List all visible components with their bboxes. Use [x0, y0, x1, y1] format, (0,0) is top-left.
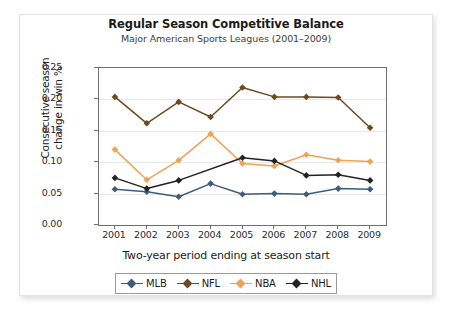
x-axis-tick-mark: [114, 225, 115, 229]
data-point-marker: [303, 172, 310, 179]
y-axis-tick-mark: [94, 193, 98, 194]
legend-label: NHL: [311, 278, 331, 289]
y-axis-label-line2: change in win %: [52, 66, 64, 149]
series-mlb: [112, 180, 374, 200]
data-point-marker: [367, 158, 374, 165]
chart-legend: MLBNFLNBANHL: [115, 273, 337, 294]
legend-label: NBA: [255, 278, 276, 289]
y-axis-tick-mark: [94, 98, 98, 99]
series-canvas: [99, 68, 386, 225]
x-axis-tick-mark: [210, 225, 211, 229]
legend-marker-icon: [286, 279, 308, 289]
legend-marker-icon: [121, 279, 143, 289]
data-point-marker: [239, 191, 246, 198]
data-point-marker: [112, 186, 119, 193]
y-axis-tick-label: 0.05: [28, 187, 62, 198]
data-point-marker: [271, 94, 278, 101]
x-axis-tick-mark: [273, 225, 274, 229]
legend-item-nhl[interactable]: NHL: [286, 278, 331, 289]
data-point-marker: [175, 177, 182, 184]
x-axis-tick-mark: [305, 225, 306, 229]
data-point-marker: [303, 151, 310, 158]
plot-area: [98, 67, 387, 226]
y-axis-tick-mark: [94, 67, 98, 68]
x-axis-tick-label: 2009: [347, 229, 391, 240]
legend-diamond-icon: [236, 279, 246, 289]
y-axis-tick-mark: [94, 161, 98, 162]
legend-diamond-icon: [182, 279, 192, 289]
chart-subtitle: Major American Sports Leagues (2001–2009…: [0, 33, 452, 44]
y-axis-tick-label: 0.10: [28, 155, 62, 166]
x-axis-tick-mark: [146, 225, 147, 229]
y-axis-tick-label: 0.15: [28, 124, 62, 135]
legend-item-nba[interactable]: NBA: [230, 278, 276, 289]
legend-label: MLB: [146, 278, 166, 289]
data-point-marker: [271, 190, 278, 197]
data-point-marker: [335, 157, 342, 164]
legend-marker-icon: [230, 279, 252, 289]
x-axis-label: Two-year period ending at season start: [0, 249, 452, 262]
legend-diamond-icon: [127, 279, 137, 289]
legend-label: NFL: [202, 278, 220, 289]
y-axis-label-line1: Consecutive season: [39, 57, 51, 158]
y-axis-tick-label: 0.25: [28, 61, 62, 72]
y-axis-label: Consecutive season change in win %: [39, 23, 65, 193]
chart-figure: Regular Season Competitive Balance Major…: [0, 0, 452, 318]
data-point-marker: [112, 175, 119, 182]
data-point-marker: [175, 193, 182, 200]
data-point-marker: [367, 177, 374, 184]
y-axis-tick-label: 0.00: [28, 218, 62, 229]
data-point-marker: [303, 191, 310, 198]
data-point-marker: [335, 185, 342, 192]
x-axis-tick-mark: [337, 225, 338, 229]
x-axis-tick-mark: [178, 225, 179, 229]
x-axis-tick-mark: [242, 225, 243, 229]
data-point-marker: [239, 155, 246, 162]
legend-diamond-icon: [291, 279, 301, 289]
y-axis-tick-mark: [94, 224, 98, 225]
x-axis-tick-mark: [369, 225, 370, 229]
chart-title: Regular Season Competitive Balance: [0, 17, 452, 31]
legend-item-nfl[interactable]: NFL: [177, 278, 220, 289]
series-line: [115, 88, 370, 128]
series-nfl: [112, 84, 374, 131]
data-point-marker: [303, 94, 310, 101]
legend-item-mlb[interactable]: MLB: [121, 278, 166, 289]
data-point-marker: [367, 186, 374, 193]
y-axis-tick-mark: [94, 130, 98, 131]
legend-marker-icon: [177, 279, 199, 289]
data-point-marker: [207, 180, 214, 187]
y-axis-tick-label: 0.20: [28, 92, 62, 103]
data-point-marker: [335, 172, 342, 179]
data-point-marker: [271, 158, 278, 165]
